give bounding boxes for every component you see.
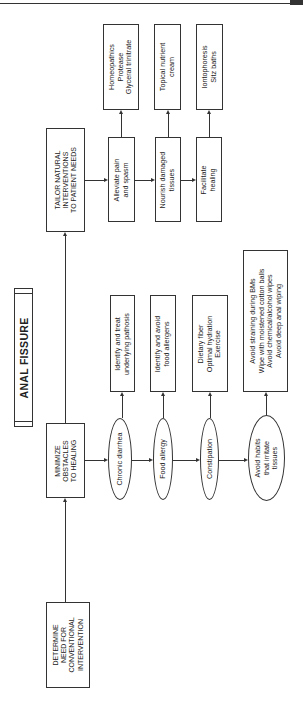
node-text: MINIMIZE	[53, 439, 61, 481]
action-text: underlying pathosis	[123, 313, 132, 375]
goal-text: and spasm	[122, 158, 131, 201]
connector	[65, 234, 66, 423]
node-text: DETERMINE	[52, 617, 60, 672]
arrow-head	[207, 110, 211, 114]
connector	[209, 112, 210, 137]
connector	[85, 180, 104, 181]
title-box-rule	[15, 421, 32, 422]
action-diet-hydration: Dietary fiber Optimal hydration Exercise	[192, 295, 228, 392]
node-minimize: MINIMIZE OBSTACLES TO HEALING	[46, 423, 85, 498]
goal-text: healing	[209, 165, 218, 194]
arrow-head	[264, 392, 268, 396]
node-text: INTERVENTIONS	[61, 147, 69, 213]
action-text: Avoid chemical/alcohol wipes	[266, 269, 275, 374]
obstacle-label: Constipation	[205, 439, 214, 479]
goal-facilitate-healing: Facilitate healing	[196, 137, 222, 222]
connector	[163, 394, 164, 418]
node-text: NEED FOR	[60, 617, 68, 672]
connector	[266, 394, 267, 415]
goal-alleviate-pain: Alleviate pain and spasm	[108, 137, 135, 222]
arrow-head	[120, 392, 124, 396]
treatment-homeopathics: Homeopathics Protease Glyceral trinitrat…	[103, 24, 139, 110]
obstacle-constipation: Constipation	[200, 418, 219, 500]
goal-text: Alleviate pain	[113, 158, 122, 201]
goal-nourish-tissues: Nourish damaged tissues	[155, 137, 181, 222]
obstacle-label: Food allergy	[159, 439, 168, 479]
node-text: TO PATIENT NEEDS	[70, 147, 78, 213]
obstacle-label: tissues	[271, 438, 280, 477]
action-text: Identify and treat	[114, 313, 123, 375]
diagram-title: ANAL FISSURE	[19, 317, 28, 398]
arrow-head	[63, 232, 67, 236]
obstacle-label: Avoid habits	[254, 438, 263, 477]
obstacle-chronic-diarrhea: Chronic diarrhea	[108, 418, 132, 500]
node-text: INTERVENTION	[76, 617, 84, 672]
connector	[173, 460, 196, 461]
goal-text: tissues	[168, 151, 177, 208]
node-text: TO HEALING	[70, 439, 78, 481]
action-text: Exercise	[214, 315, 223, 371]
connector	[135, 180, 151, 181]
corner-marker	[290, 0, 303, 5]
connector	[85, 460, 104, 461]
connector	[181, 180, 192, 181]
action-avoid-habits: Avoid straining during BMs Wipe with moi…	[243, 250, 288, 392]
action-text: Avoid deep anal wiping	[274, 269, 283, 374]
treatment-text: Iontophoresis	[201, 45, 210, 88]
treatment-topical-cream: Topical nutrient cream	[154, 24, 181, 110]
node-tailor: TAILOR NATURAL INTERVENTIONS TO PATIENT …	[46, 128, 85, 232]
arrow-head	[161, 392, 165, 396]
arrow-head	[208, 392, 212, 396]
action-avoid-allergens: Identify and avoid food allergens	[150, 295, 176, 392]
action-text: Avoid straining during BMs	[248, 269, 257, 374]
treatment-text: Topical nutrient	[159, 43, 168, 91]
connector	[168, 112, 169, 137]
obstacle-label: Chronic diarrhea	[116, 432, 125, 485]
connector	[122, 394, 123, 418]
node-text: TAILOR NATURAL	[53, 147, 61, 213]
node-determine: DETERMINE NEED FOR CONVENTIONAL INTERVEN…	[46, 602, 90, 688]
treatment-text: Glyceral trinitrate	[125, 40, 134, 94]
title-box: ANAL FISSURE	[14, 288, 33, 427]
arrow-head	[63, 498, 67, 502]
connector	[121, 112, 122, 137]
arrow-head	[119, 110, 123, 114]
connector	[210, 394, 211, 418]
arrow-head	[166, 110, 170, 114]
title-box-rule	[15, 293, 32, 294]
connector	[132, 460, 149, 461]
treatment-text: Sitz baths	[210, 45, 219, 88]
node-text: CONVENTIONAL	[68, 617, 76, 672]
node-text: OBSTACLES	[61, 439, 69, 481]
top-rule	[0, 3, 290, 4]
connector	[65, 500, 66, 602]
action-text: food allergens	[163, 315, 172, 371]
obstacle-avoid-habits: Avoid habits that irritate tissues	[248, 415, 285, 501]
connector	[219, 460, 244, 461]
treatment-iontophoresis: Iontophoresis Sitz baths	[196, 24, 223, 110]
treatment-text: cream	[168, 43, 177, 91]
action-treat-pathosis: Identify and treat underlying pathosis	[110, 295, 135, 392]
obstacle-food-allergy: Food allergy	[153, 418, 173, 500]
